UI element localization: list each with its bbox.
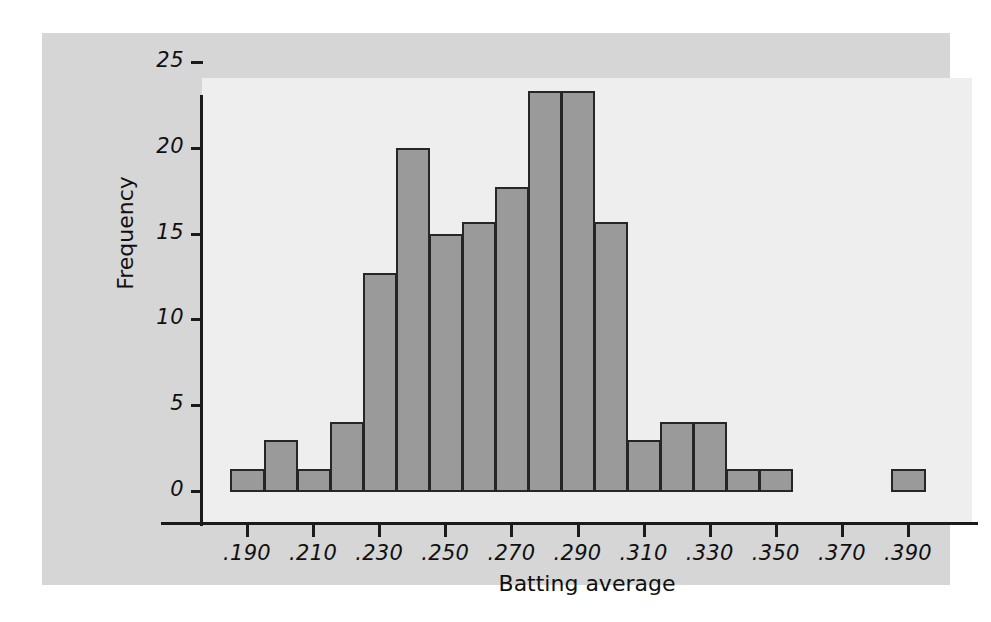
y-axis-title-text: Frequency bbox=[113, 153, 138, 313]
histogram-bar bbox=[429, 234, 463, 492]
x-tick-.370 bbox=[841, 524, 844, 537]
x-tick-.270 bbox=[510, 524, 513, 537]
y-tick-20 bbox=[191, 147, 203, 150]
histogram-bar bbox=[462, 222, 496, 492]
y-axis-line bbox=[200, 95, 203, 526]
x-tick-.310 bbox=[643, 524, 646, 537]
y-tick-label-wrap: 25 bbox=[130, 48, 184, 72]
histogram-bar bbox=[891, 469, 925, 492]
y-tick-label: 5 bbox=[142, 391, 184, 415]
y-tick-label-wrap: 15 bbox=[130, 220, 184, 244]
y-tick-label: 20 bbox=[142, 134, 184, 158]
y-tick-label: 15 bbox=[142, 220, 184, 244]
x-tick-.190 bbox=[246, 524, 249, 537]
x-tick-label: .390 bbox=[868, 541, 948, 565]
histogram-bar bbox=[726, 469, 760, 492]
x-tick-.330 bbox=[709, 524, 712, 537]
histogram-bar bbox=[627, 440, 661, 492]
histogram-bar bbox=[230, 469, 264, 492]
histogram-bar bbox=[528, 91, 562, 492]
histogram-bar bbox=[759, 469, 793, 492]
y-tick-label-wrap: 20 bbox=[130, 134, 184, 158]
y-axis-title: Frequency bbox=[113, 73, 138, 233]
y-tick-5 bbox=[191, 404, 203, 407]
histogram-bar bbox=[264, 440, 298, 492]
x-tick-.290 bbox=[577, 524, 580, 537]
y-tick-15 bbox=[191, 233, 203, 236]
histogram-bar bbox=[660, 422, 694, 492]
y-tick-label-wrap: 5 bbox=[130, 391, 184, 415]
histogram-bar bbox=[330, 422, 364, 492]
histogram-bar bbox=[594, 222, 628, 492]
histogram-bar bbox=[297, 469, 331, 492]
histogram-bar bbox=[561, 91, 595, 492]
y-tick-10 bbox=[191, 318, 203, 321]
y-tick-0 bbox=[191, 490, 203, 493]
x-tick-.210 bbox=[312, 524, 315, 537]
figure-panel: 0510152025 .190.210.230.250.270.290.310.… bbox=[42, 33, 950, 585]
y-tick-label: 10 bbox=[142, 305, 184, 329]
y-tick-label-wrap: 0 bbox=[130, 477, 184, 501]
x-axis-line bbox=[161, 522, 978, 525]
y-tick-25 bbox=[191, 61, 203, 64]
y-tick-label: 25 bbox=[142, 48, 184, 72]
x-axis-title: Batting average bbox=[202, 571, 972, 596]
x-tick-.390 bbox=[907, 524, 910, 537]
y-tick-label: 0 bbox=[142, 477, 184, 501]
histogram-bar bbox=[396, 148, 430, 492]
histogram-bar bbox=[363, 273, 397, 492]
x-tick-.350 bbox=[775, 524, 778, 537]
x-tick-.230 bbox=[378, 524, 381, 537]
histogram-bar bbox=[495, 187, 529, 492]
histogram-bar bbox=[693, 422, 727, 492]
y-tick-label-wrap: 10 bbox=[130, 305, 184, 329]
x-tick-.250 bbox=[444, 524, 447, 537]
